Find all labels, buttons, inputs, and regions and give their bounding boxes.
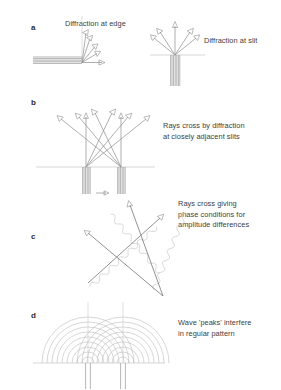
slit-diffracted-ray (154, 38, 175, 55)
arrowhead-icon (109, 109, 115, 115)
arrowhead-icon (57, 116, 63, 122)
arrowhead-icon (127, 201, 133, 207)
slit-diffracted-ray (160, 32, 175, 55)
slit-diffracted-ray (175, 32, 190, 55)
arrowhead-icon (87, 35, 93, 41)
arrowhead-icon (187, 28, 193, 34)
panel-b-graphic (0, 95, 281, 195)
diffracted-ray (82, 39, 90, 63)
panel-c: c Rays cross giving phase conditions for… (0, 195, 281, 300)
panel-c-graphic (0, 195, 281, 300)
panel-d-graphic (0, 300, 281, 390)
slit-ray-right (79, 117, 121, 167)
panel-b: b Rays cross by diffraction at closely a… (0, 95, 281, 195)
arrowhead-icon (84, 230, 90, 236)
slit-ray-left (86, 119, 146, 167)
panel-a: a Diffraction at edge Diffraction at sli… (0, 0, 281, 95)
slit-diffracted-ray (175, 38, 196, 55)
panel-d: d Wave 'peaks' interfere in regular patt… (0, 300, 281, 390)
wave-train-2 (109, 213, 162, 275)
panel-a-graphic (0, 0, 281, 95)
slit-ray-right (61, 119, 121, 167)
slit-ray-left (86, 117, 128, 167)
crossing-ray (88, 218, 160, 283)
arrowhead-icon (144, 116, 150, 122)
arrowhead-icon (157, 28, 163, 34)
arrowhead-icon (91, 109, 97, 115)
arrowhead-icon (95, 51, 101, 56)
